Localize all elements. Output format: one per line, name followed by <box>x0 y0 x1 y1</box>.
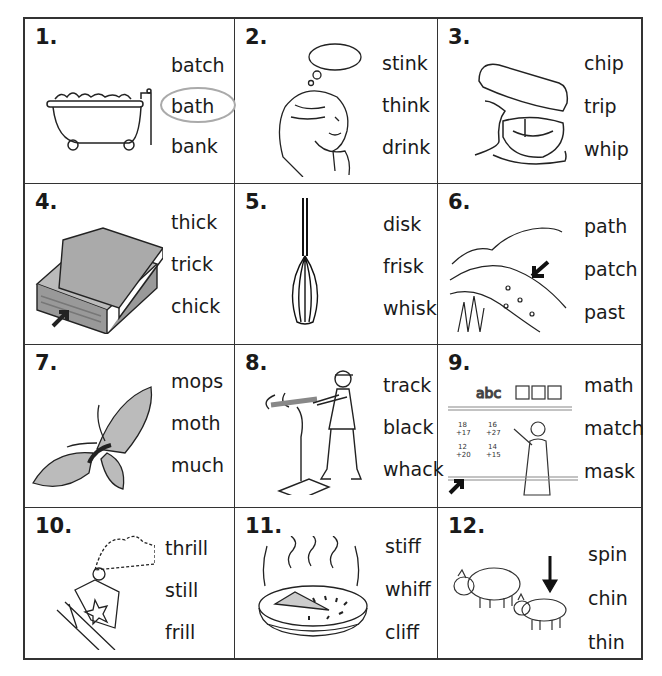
item-number: 5. <box>245 190 268 214</box>
item-number: 4. <box>35 190 58 214</box>
word-option[interactable]: whiff <box>385 577 431 601</box>
item-number: 1. <box>35 25 58 49</box>
pigs-icon <box>446 552 581 632</box>
batter-hitting-tee-icon <box>255 365 375 495</box>
item-number: 3. <box>448 25 471 49</box>
moth-icon <box>27 383 157 493</box>
bathtub-icon <box>45 87 157 153</box>
word-option[interactable]: think <box>382 93 430 117</box>
word-option[interactable]: frill <box>165 620 208 644</box>
item-6: 6. path patch past <box>438 184 641 345</box>
word-option[interactable]: stink <box>382 51 430 75</box>
word-option[interactable]: cliff <box>385 620 431 644</box>
word-option[interactable]: past <box>584 300 638 324</box>
item-5: 5. disk frisk whisk <box>235 184 438 345</box>
item-number: 11. <box>245 514 282 538</box>
item-8: 8. track black whack <box>235 345 438 508</box>
worksheet-grid: 1. batch bath bank 2. <box>23 17 643 660</box>
svg-text:18: 18 <box>458 421 467 429</box>
svg-text:+15: +15 <box>486 451 501 459</box>
word-option[interactable]: mops <box>171 369 224 393</box>
word-option[interactable]: thrill <box>165 536 208 560</box>
teacher-math-board-icon: abc 18 +17 16 +27 12 +20 14 +15 <box>446 381 581 501</box>
word-option[interactable]: bank <box>171 134 225 158</box>
path-landscape-icon <box>448 224 568 334</box>
word-option[interactable]: trick <box>171 252 220 276</box>
word-option[interactable]: black <box>383 415 444 439</box>
girl-thinking-icon <box>265 37 375 177</box>
word-option[interactable]: whisk <box>383 296 437 320</box>
item-10: 10. thrill still frill <box>25 508 235 658</box>
word-option[interactable]: batch <box>171 53 225 77</box>
word-option[interactable]: mask <box>584 459 644 483</box>
word-option[interactable]: match <box>584 416 644 440</box>
word-option[interactable]: thin <box>588 630 628 654</box>
word-option-circled[interactable]: bath <box>171 94 225 118</box>
item-4: 4. thick trick chick <box>25 184 235 345</box>
svg-text:12: 12 <box>458 443 467 451</box>
item-7: 7. mops moth much <box>25 345 235 508</box>
svg-text:16: 16 <box>488 421 497 429</box>
whisk-icon <box>285 196 325 326</box>
svg-text:+17: +17 <box>456 429 471 437</box>
item-2: 2. stink think drink <box>235 19 438 184</box>
stand-mixer-icon <box>473 59 573 169</box>
item-number: 12. <box>448 514 485 538</box>
word-option[interactable]: stiff <box>385 534 431 558</box>
thick-books-icon <box>33 214 163 334</box>
svg-text:abc: abc <box>476 385 501 401</box>
word-option[interactable]: drink <box>382 135 430 159</box>
word-option[interactable]: frisk <box>383 254 437 278</box>
item-1: 1. batch bath bank <box>25 19 235 184</box>
item-11: 11. stiff whiff cliff <box>235 508 438 658</box>
roller-coaster-icon <box>55 530 155 650</box>
word-option[interactable]: track <box>383 373 444 397</box>
word-option[interactable]: math <box>584 373 644 397</box>
svg-text:+20: +20 <box>456 451 471 459</box>
word-option[interactable]: whip <box>584 137 629 161</box>
word-option[interactable]: disk <box>383 212 437 236</box>
item-9: 9. abc 18 +17 16 +27 12 +20 14 +15 math … <box>438 345 641 508</box>
word-option[interactable]: chick <box>171 294 220 318</box>
word-option[interactable]: chin <box>588 586 628 610</box>
word-option[interactable]: trip <box>584 94 629 118</box>
word-option[interactable]: still <box>165 578 208 602</box>
word-option[interactable]: chip <box>584 51 629 75</box>
word-option[interactable]: thick <box>171 210 220 234</box>
word-option[interactable]: moth <box>171 411 224 435</box>
word-option[interactable]: whack <box>383 457 444 481</box>
item-number: 6. <box>448 190 471 214</box>
item-3: 3. chip trip whip <box>438 19 641 184</box>
svg-text:+27: +27 <box>486 429 501 437</box>
word-option[interactable]: spin <box>588 542 628 566</box>
word-option[interactable]: much <box>171 453 224 477</box>
steaming-pie-icon <box>253 536 373 646</box>
item-number: 7. <box>35 351 58 375</box>
item-12: 12. spin chin thin <box>438 508 641 658</box>
word-option[interactable]: patch <box>584 257 638 281</box>
word-option[interactable]: path <box>584 214 638 238</box>
item-number: 9. <box>448 351 471 375</box>
svg-text:14: 14 <box>488 443 497 451</box>
